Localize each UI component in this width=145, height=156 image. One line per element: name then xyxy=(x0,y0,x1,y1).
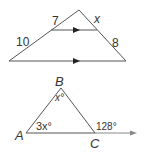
vertex-c-label: C xyxy=(90,136,100,151)
parallel-arrow-top-icon xyxy=(73,27,80,33)
label-10: 10 xyxy=(16,35,30,49)
geometry-figures: 7 x 10 8 B x° A 3x° C 128° xyxy=(0,0,145,156)
angle-a-label: 3x° xyxy=(36,120,52,132)
angle-b-label: x° xyxy=(54,92,64,103)
vertex-a-label: A xyxy=(14,128,24,143)
parallel-arrow-bottom-icon xyxy=(73,58,80,64)
vertex-b-label: B xyxy=(55,74,64,89)
ray-arrow-icon xyxy=(130,131,137,136)
label-7: 7 xyxy=(52,14,59,28)
label-8: 8 xyxy=(112,36,119,50)
angle-a-text: 3x° xyxy=(36,120,52,132)
triangle-abc-figure: B x° A 3x° C 128° xyxy=(14,74,137,151)
exterior-angle-c-label: 128° xyxy=(96,121,117,132)
label-x: x xyxy=(93,12,101,26)
triangle-parallel-figure: 7 x 10 8 xyxy=(9,10,126,64)
